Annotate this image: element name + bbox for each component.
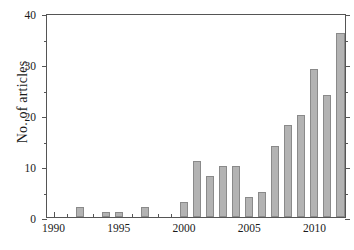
bar	[310, 69, 318, 217]
x-tick-major: 1990	[54, 212, 55, 217]
x-tick-minor	[67, 214, 68, 217]
bar	[141, 207, 149, 217]
y-tick-major: 10	[42, 168, 47, 169]
bar	[284, 125, 292, 217]
y-tick-minor	[44, 143, 47, 144]
y-tick-major: 30	[42, 66, 47, 67]
y-tick-minor	[44, 194, 47, 195]
bar	[193, 161, 201, 217]
y-tick-label: 10	[24, 162, 36, 174]
y-tick-major-right	[345, 15, 350, 16]
y-tick-minor-right	[345, 41, 348, 42]
y-tick-minor	[44, 92, 47, 93]
y-axis-title: No. of articles	[15, 27, 31, 177]
y-tick-label: 40	[24, 9, 36, 21]
y-tick-major-right	[345, 66, 350, 67]
y-tick-label: 0	[30, 213, 36, 225]
bar	[336, 33, 344, 217]
y-tick-label: 30	[24, 60, 36, 72]
x-tick-minor	[93, 214, 94, 217]
bar	[297, 115, 305, 217]
x-tick-minor	[158, 214, 159, 217]
x-tick-minor	[171, 214, 172, 217]
y-tick-minor-right	[345, 143, 348, 144]
bar	[258, 192, 266, 218]
y-tick-major: 40	[42, 15, 47, 16]
y-tick-minor	[44, 41, 47, 42]
bar	[102, 212, 110, 217]
y-tick-label: 20	[24, 111, 36, 123]
y-tick-major: 20	[42, 117, 47, 118]
y-tick-major-right	[345, 219, 350, 220]
y-tick-major-right	[345, 117, 350, 118]
y-tick-major: 0	[42, 219, 47, 220]
bar	[245, 197, 253, 217]
bar	[232, 166, 240, 217]
bar	[206, 176, 214, 217]
y-tick-minor-right	[345, 92, 348, 93]
bar	[180, 202, 188, 217]
x-tick-label: 2000	[172, 222, 195, 234]
bar	[219, 166, 227, 217]
bar	[271, 146, 279, 217]
plot-area: 010203040 19901995200020052010	[46, 14, 346, 218]
x-tick-label: 2005	[238, 222, 261, 234]
x-tick-minor	[132, 214, 133, 217]
y-tick-minor-right	[345, 194, 348, 195]
x-tick-label: 1995	[107, 222, 130, 234]
x-tick-label: 2010	[303, 222, 326, 234]
bar	[323, 95, 331, 217]
bar	[115, 212, 123, 217]
y-tick-major-right	[345, 168, 350, 169]
x-tick-label: 1990	[42, 222, 65, 234]
chart-figure: No. of articles 010203040 19901995200020…	[0, 0, 354, 250]
bar	[76, 207, 84, 217]
